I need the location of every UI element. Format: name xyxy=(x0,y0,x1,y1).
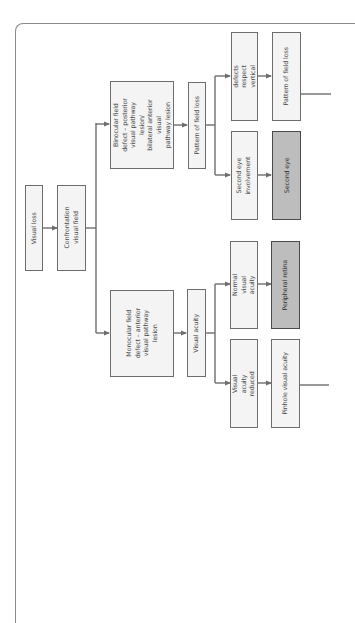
node-visual-acuity: Visual acuity xyxy=(187,289,206,377)
node-binocular-field-defect: Binocular field defect – posterior visua… xyxy=(110,81,174,169)
node-visual-acuity-reduced: Visual acuity reduced xyxy=(230,339,258,428)
node-label: Pinhole visual acuity xyxy=(281,352,290,414)
node-second-eye: Second eye xyxy=(272,131,301,220)
node-monocular-field-defect: Monocular field defect – anterior visual… xyxy=(110,290,174,377)
node-label: Visual loss xyxy=(30,212,39,244)
node-pattern-of-field-loss-2: Pattern of field loss xyxy=(272,32,301,121)
node-visual-loss: Visual loss xyxy=(25,185,43,271)
node-label: Confrontation visual field xyxy=(63,207,80,249)
node-label: Normal visual acuity xyxy=(231,272,257,298)
node-second-eye-involvement: Second eye involvement xyxy=(231,131,258,220)
node-confrontation-visual-field: Confrontation visual field xyxy=(57,185,86,271)
node-pinhole-visual-acuity: Pinhole visual acuity xyxy=(271,339,300,428)
node-pattern-of-field-loss: Pattern of field loss xyxy=(188,82,206,169)
node-label: Visual acuity xyxy=(192,314,201,353)
node-label: Monocular field defect – anterior visual… xyxy=(125,303,159,365)
node-label: Field defects respect vertical midline xyxy=(231,64,258,89)
node-label: Second eye xyxy=(282,158,291,194)
node-label: Second eye involvement xyxy=(236,156,253,194)
node-label: Pattern of field loss xyxy=(282,47,291,105)
node-field-defects-vertical-midline: Field defects respect vertical midline xyxy=(231,32,258,121)
node-label: Peripheral retina xyxy=(281,260,290,311)
node-label: Pattern of field loss xyxy=(193,96,202,154)
node-peripheral-retina: Peripheral retina xyxy=(271,241,300,329)
node-label: Visual acuity reduced xyxy=(231,371,257,397)
node-label: Binocular field defect – posterior visua… xyxy=(112,94,172,156)
node-normal-visual-acuity: Normal visual acuity xyxy=(230,241,258,329)
